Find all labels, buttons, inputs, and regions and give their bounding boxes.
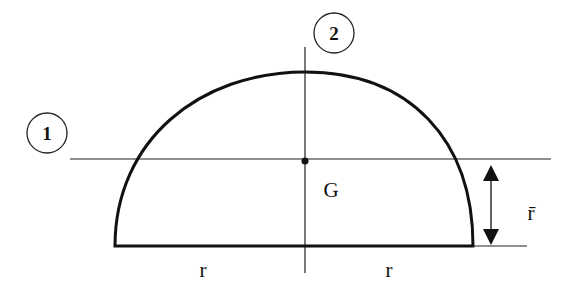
centroid-distance-label: r̄ (528, 201, 537, 225)
arrow-down-icon (483, 229, 499, 245)
semicircle-diagram: 1 2 G r r r̄ (0, 0, 574, 295)
arrow-up-icon (483, 165, 499, 181)
axis-2-label: 2 (329, 23, 339, 44)
centroid-dot (302, 158, 309, 165)
axis-1-label: 1 (42, 123, 52, 144)
right-radius-label: r (386, 258, 393, 282)
centroid-label: G (323, 178, 338, 202)
left-radius-label: r (200, 258, 207, 282)
